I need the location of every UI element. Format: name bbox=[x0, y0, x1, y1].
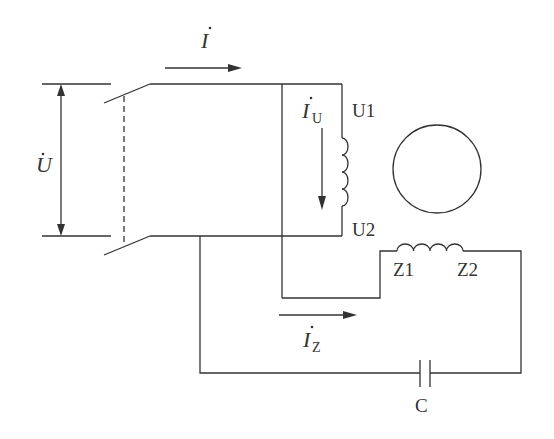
current-main-label: I bbox=[301, 98, 311, 123]
current-arrow-aux bbox=[279, 311, 357, 319]
aux-winding-coil bbox=[397, 244, 463, 251]
capacitor-label: C bbox=[415, 395, 428, 416]
voltage-label: U bbox=[36, 152, 54, 177]
phasor-dot bbox=[209, 27, 212, 30]
phasor-dot bbox=[311, 326, 314, 329]
current-aux-subscript: Z bbox=[312, 340, 321, 355]
phasor-dot bbox=[310, 97, 313, 100]
circuit-diagram: U I I U U1 U2 Z1 Z2 C bbox=[0, 0, 554, 439]
main-winding-coil bbox=[342, 138, 348, 206]
double-pole-switch bbox=[104, 84, 150, 255]
current-arrow-total bbox=[165, 64, 242, 72]
aux-winding-wire-left bbox=[282, 251, 397, 298]
phasor-dot bbox=[42, 153, 45, 156]
capacitor-symbol bbox=[420, 360, 430, 387]
terminal-u1: U1 bbox=[352, 100, 375, 121]
current-arrow-main bbox=[318, 128, 326, 210]
terminal-u2: U2 bbox=[352, 219, 375, 240]
capacitor-wire-left bbox=[200, 236, 420, 373]
terminal-z2: Z2 bbox=[457, 259, 478, 280]
current-main-subscript: U bbox=[312, 111, 322, 126]
terminal-z1: Z1 bbox=[393, 259, 414, 280]
current-total-label: I bbox=[200, 28, 210, 53]
current-aux-label: I bbox=[302, 327, 312, 352]
rotor-circle bbox=[393, 125, 481, 213]
voltage-arrow bbox=[57, 84, 65, 236]
